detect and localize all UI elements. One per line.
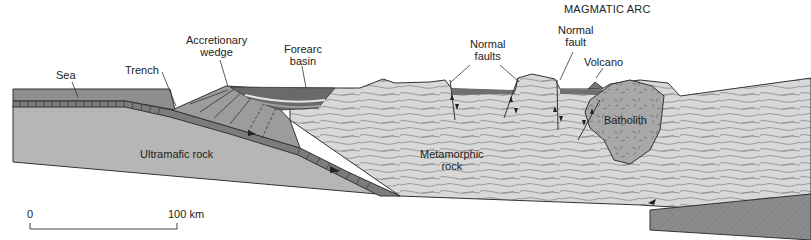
scale-bar-start-label: 0 (27, 208, 33, 220)
label-volcano: Volcano (584, 56, 623, 68)
scale-bar-end-label: 100 km (168, 208, 204, 220)
label-sea: Sea (56, 69, 76, 81)
magmatic-arc-title: MAGMATIC ARC (564, 3, 651, 15)
label-metamorphic-rock: Metamorphic rock (420, 148, 484, 172)
label-batholith: Batholith (604, 114, 647, 126)
label-ultramafic-rock: Ultramafic rock (140, 148, 213, 160)
subduction-cross-section-diagram (0, 0, 811, 240)
label-normal-fault: Normal fault (558, 24, 593, 48)
label-accretionary-wedge: Accretionary wedge (186, 34, 247, 58)
scale-bar (30, 223, 177, 229)
label-normal-faults: Normal faults (470, 38, 505, 62)
sediment-cover (452, 88, 515, 95)
volcano (588, 82, 603, 89)
label-forearc-basin: Forearc basin (284, 43, 322, 67)
label-trench: Trench (125, 64, 159, 76)
